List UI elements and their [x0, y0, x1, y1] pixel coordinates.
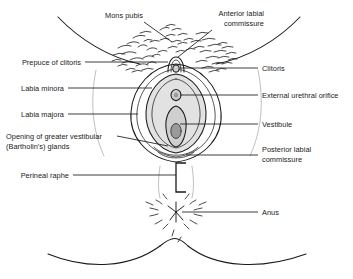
urethral-opening	[174, 92, 178, 97]
label-perineal-raphe: Perineal raphe	[21, 171, 69, 180]
label-bartholin-glands-line1: Opening of greater vestibular	[6, 132, 102, 141]
label-bartholin-glands-line2: (Bartholin's) glands	[6, 142, 70, 151]
perineal-peak	[160, 239, 188, 247]
label-posterior-labial-commissure-line1: Posterior labial	[262, 145, 312, 154]
label-posterior-labial-commissure-line2: commissure	[262, 155, 302, 164]
leader-anterior-labial-commissure	[178, 30, 212, 57]
perineum-left-edge	[159, 166, 161, 198]
label-prepuce-of-clitoris: Prepuce of clitoris	[22, 58, 81, 67]
left-groin-crease	[58, 17, 140, 64]
left-buttock-curve	[48, 246, 160, 264]
figure-container: Mons pubis Anterior labial commissure Pr…	[0, 0, 353, 279]
label-labia-minora: Labia minora	[21, 84, 65, 93]
label-labia-majora: Labia majora	[21, 110, 65, 119]
perineum	[159, 163, 194, 198]
perineum-right-edge	[192, 166, 194, 198]
label-anterior-labial-commissure-line1: Anterior labial	[219, 9, 265, 18]
label-mons-pubis: Mons pubis	[105, 11, 143, 20]
label-external-urethral-orifice: External urethral orifice	[262, 91, 339, 100]
external-urethral-orifice	[171, 89, 181, 100]
anus-region	[146, 194, 206, 242]
right-inner-thigh	[250, 70, 261, 156]
anatomical-diagram: Mons pubis Anterior labial commissure Pr…	[0, 0, 353, 279]
label-anus: Anus	[262, 208, 279, 217]
anus-folds	[168, 202, 184, 222]
label-clitoris: Clitoris	[262, 64, 285, 73]
label-anterior-labial-commissure-line2: commissure	[224, 19, 264, 28]
label-vestibule: Vestibule	[262, 120, 292, 129]
vaginal-orifice	[166, 106, 186, 147]
left-inner-thigh	[93, 70, 104, 156]
perineal-raphe-bracket	[176, 163, 186, 192]
right-buttock-curve	[188, 246, 306, 264]
